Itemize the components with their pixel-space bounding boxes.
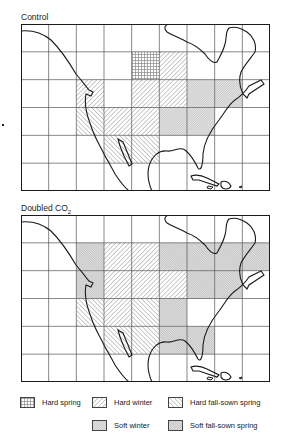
doubled-co2-map-title: Doubled CO2 (21, 203, 71, 215)
hard-winter-swatch-icon (92, 397, 107, 408)
map-cell-hard-winter (76, 80, 104, 108)
legend-item-hard-fall-sown-spring: Hard fall-sown spring (168, 397, 260, 408)
map-cell-hard-winter (104, 108, 132, 136)
map-cell-soft-fall-sown-spring (76, 271, 104, 299)
map-cell-hard-winter (159, 271, 187, 299)
map-cell-hard-spring (132, 52, 160, 80)
map-cell-soft-fall-sown-spring (215, 271, 243, 299)
legend-label: Soft fall-sown spring (190, 421, 258, 430)
map-cell-hard-winter (159, 80, 187, 108)
legend-label: Soft winter (114, 421, 149, 430)
map-cell-soft-fall-sown-spring (187, 243, 215, 271)
stray-mark (2, 124, 4, 126)
control-map (21, 24, 270, 191)
legend-label: Hard fall-sown spring (190, 398, 260, 407)
legend-item-hard-winter: Hard winter (92, 397, 152, 408)
map-cell-hard-winter (104, 243, 132, 271)
map-cell-hard-fall-sown-spring (132, 135, 160, 163)
map-cell-hard-fall-sown-spring (76, 108, 104, 136)
control-map-title: Control (21, 12, 48, 22)
control-title-text: Control (21, 12, 48, 22)
map-cell-hard-winter (132, 108, 160, 136)
legend-label: Hard winter (114, 398, 152, 407)
map-cell-hard-winter (132, 243, 160, 271)
map-cell-soft-fall-sown-spring (215, 243, 243, 271)
hard-fall-sown-spring-swatch-icon (168, 397, 183, 408)
map-cell-soft-fall-sown-spring (76, 243, 104, 271)
map-cell-hard-winter (132, 80, 160, 108)
soft-winter-swatch-icon (92, 420, 107, 431)
legend: Hard spring Hard winter (0, 390, 288, 440)
map-cell-hard-winter (132, 271, 160, 299)
map-cell-soft-fall-sown-spring (242, 243, 270, 271)
map-cell-hard-winter (104, 299, 132, 327)
map-cell-hard-winter (159, 52, 187, 80)
map-cell-soft-winter (215, 80, 243, 108)
map-cell-hard-fall-sown-spring (132, 326, 160, 354)
map-cell-hard-winter (104, 271, 132, 299)
map-cell-soft-fall-sown-spring (187, 271, 215, 299)
legend-item-soft-fall-sown-spring: Soft fall-sown spring (168, 420, 258, 431)
map-cell-soft-winter (187, 80, 215, 108)
legend-item-soft-winter: Soft winter (92, 420, 149, 431)
doubled-co2-map (21, 215, 270, 382)
map-cell-soft-fall-sown-spring (159, 299, 187, 327)
doubled-co2-title-text: Doubled CO (21, 203, 68, 213)
map-cell-hard-fall-sown-spring (76, 299, 104, 327)
co2-subscript: 2 (68, 209, 71, 215)
legend-label: Hard spring (42, 398, 81, 407)
soft-fall-sown-spring-swatch-icon (168, 420, 183, 431)
map-cell-soft-winter (159, 108, 187, 136)
hard-spring-swatch-icon (20, 397, 35, 408)
map-cell-hard-fall-sown-spring (132, 299, 160, 327)
map-cell-soft-fall-sown-spring (187, 326, 215, 354)
legend-item-hard-spring: Hard spring (20, 397, 81, 408)
map-cell-soft-fall-sown-spring (159, 243, 187, 271)
